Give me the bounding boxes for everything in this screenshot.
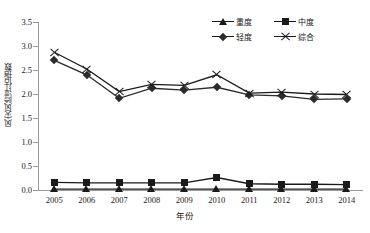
x-tick-label: 2014 (327, 196, 367, 205)
legend-item-diamond[interactable]: 轻度 (212, 29, 274, 44)
data-point-marker (311, 181, 318, 188)
data-point-marker (50, 185, 58, 192)
y-tick-label: 1.5 (0, 114, 32, 123)
data-point-marker (181, 179, 188, 186)
series-lines (38, 22, 363, 190)
y-tick-label: 0.0 (0, 186, 32, 195)
legend-item-square[interactable]: 中度 (274, 14, 344, 29)
y-tick-label: 0.5 (0, 162, 32, 171)
y-tick-label: 2.0 (0, 90, 32, 99)
legend-label: 综合 (298, 31, 314, 42)
y-tick-label: 2.5 (0, 66, 32, 75)
legend-item-triangle[interactable]: 重度 (212, 14, 274, 29)
data-point-marker (341, 89, 352, 100)
legend-item-cross[interactable]: 综合 (274, 29, 344, 44)
chart-legend: 重度中度轻度综合 (212, 14, 344, 44)
plot-area (38, 22, 363, 190)
data-point-marker (246, 180, 253, 187)
data-point-marker (83, 179, 90, 186)
legend-label: 轻度 (236, 31, 252, 42)
data-point-marker (212, 185, 220, 192)
data-point-marker (114, 86, 125, 97)
y-tick-label: 3.5 (0, 18, 32, 27)
data-point-marker (276, 87, 287, 98)
data-point-marker (81, 64, 92, 75)
chart-container: 风灾风险评估指数 0.00.51.01.52.02.53.03.5 200520… (0, 0, 370, 233)
x-axis-title: 年份 (0, 209, 370, 221)
data-point-marker (179, 80, 190, 91)
y-tick-label: 3.0 (0, 42, 32, 51)
legend-swatch-triangle-icon (212, 17, 234, 26)
data-point-marker (49, 47, 60, 58)
legend-label: 重度 (236, 16, 252, 27)
legend-label: 中度 (298, 16, 314, 27)
data-point-marker (146, 79, 157, 90)
y-tick-mark (33, 190, 38, 191)
legend-swatch-square-icon (274, 17, 296, 26)
legend-swatch-diamond-icon (212, 32, 234, 41)
data-point-marker (309, 89, 320, 100)
data-point-marker (213, 174, 220, 181)
data-point-marker (278, 181, 285, 188)
data-point-marker (343, 181, 350, 188)
data-point-marker (148, 179, 155, 186)
legend-swatch-cross-icon (274, 32, 296, 41)
data-point-marker (211, 69, 222, 80)
data-point-marker (51, 179, 58, 186)
series-line (54, 178, 347, 185)
data-point-marker (244, 88, 255, 99)
data-point-marker (116, 179, 123, 186)
y-tick-label: 1.0 (0, 138, 32, 147)
